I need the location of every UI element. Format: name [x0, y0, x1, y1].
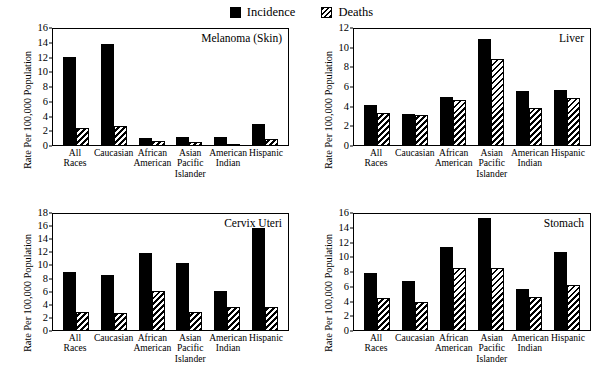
bar-group — [510, 214, 548, 330]
bar-group — [208, 214, 246, 330]
plot-area-melanoma: Melanoma (Skin) — [52, 28, 289, 146]
plot-area-cervix-uteri: Cervix Uteri — [52, 213, 289, 331]
y-tick-label: 2 — [43, 126, 48, 137]
bar-group — [133, 29, 171, 145]
y-tick-label: 18 — [38, 208, 49, 219]
bar-deaths — [114, 126, 127, 145]
plot-area-stomach: Stomach — [353, 213, 591, 331]
bar-group — [472, 214, 510, 330]
x-tick-label: Asian Pacific Islander — [473, 333, 511, 364]
x-tick-label: American Indian — [209, 148, 247, 179]
y-tick-label: 10 — [339, 252, 350, 263]
y-tick-label: 8 — [43, 273, 48, 284]
bar-group — [434, 214, 472, 330]
bar-group — [95, 29, 133, 145]
x-tick-label: All Races — [357, 333, 395, 364]
y-tick-label: 4 — [344, 296, 349, 307]
x-axis-labels-melanoma: All RacesCaucasianAfrican AmericanAsian … — [52, 148, 289, 179]
x-tick-label: African American — [435, 333, 473, 364]
bar-incidence — [364, 105, 377, 145]
bar-incidence — [63, 57, 76, 145]
bar-incidence — [402, 114, 415, 145]
x-tick-label: Hispanic — [247, 148, 285, 179]
bar-group — [246, 29, 284, 145]
bar-group — [170, 29, 208, 145]
bar-group — [170, 214, 208, 330]
bar-incidence — [440, 247, 453, 330]
bar-incidence — [214, 291, 227, 330]
y-axis-ticks: 024681012141618 — [0, 213, 52, 331]
y-tick-label: 0 — [344, 326, 349, 337]
y-tick-label: 0 — [344, 141, 349, 152]
y-tick-label: 16 — [38, 23, 49, 34]
y-tick-label: 2 — [344, 311, 349, 322]
x-tick-label: American Indian — [511, 148, 549, 179]
bar-incidence — [402, 281, 415, 330]
bar-incidence — [516, 289, 529, 330]
bar-group — [95, 214, 133, 330]
bar-deaths — [453, 100, 466, 145]
bar-deaths — [491, 59, 504, 145]
panel-cervix-uteri: Rate Per 100,000 Population 024681012141… — [0, 201, 301, 384]
legend-label-incidence: Incidence — [247, 6, 296, 19]
y-tick-label: 14 — [38, 234, 49, 245]
x-axis-labels-liver: All RacesCaucasianAfrican AmericanAsian … — [353, 148, 591, 179]
x-tick-label: Caucasian — [94, 333, 133, 364]
bar-group — [548, 29, 586, 145]
y-tick-label: 8 — [344, 267, 349, 278]
x-tick-label: Hispanic — [549, 333, 587, 364]
bar-incidence — [554, 252, 567, 330]
bar-incidence — [139, 138, 152, 145]
bar-incidence — [101, 44, 114, 146]
bar-incidence — [176, 263, 189, 330]
x-axis-labels-cervix-uteri: All RacesCaucasianAfrican AmericanAsian … — [52, 333, 289, 364]
bar-incidence — [176, 137, 189, 145]
y-tick-label: 10 — [38, 260, 49, 271]
bar-deaths — [152, 291, 165, 330]
bar-deaths — [491, 268, 504, 330]
bar-deaths — [227, 144, 240, 145]
y-tick-label: 12 — [339, 23, 350, 34]
bar-incidence — [214, 137, 227, 145]
bars-stomach — [354, 214, 590, 330]
bar-deaths — [265, 307, 278, 330]
bar-group — [434, 29, 472, 145]
bars-cervix-uteri — [53, 214, 288, 330]
bar-incidence — [364, 273, 377, 330]
x-tick-label: Asian Pacific Islander — [171, 333, 209, 364]
bar-deaths — [114, 313, 127, 330]
bar-group — [57, 29, 95, 145]
x-tick-label: Hispanic — [247, 333, 285, 364]
y-axis-ticks: 0246810121416 — [301, 213, 353, 331]
y-tick-label: 14 — [339, 223, 350, 234]
y-tick-label: 6 — [344, 282, 349, 293]
bar-deaths — [377, 298, 390, 330]
bar-incidence — [478, 39, 491, 145]
x-tick-label: African American — [133, 148, 171, 179]
x-tick-label: Asian Pacific Islander — [473, 148, 511, 179]
bars-melanoma — [53, 29, 288, 145]
y-tick-label: 4 — [43, 111, 48, 122]
bar-group — [358, 214, 396, 330]
x-tick-label: African American — [133, 333, 171, 364]
x-tick-label: All Races — [56, 148, 94, 179]
bar-deaths — [189, 312, 202, 330]
bar-deaths — [567, 285, 580, 330]
bar-deaths — [453, 268, 466, 330]
bar-deaths — [377, 113, 390, 145]
panel-stomach: Rate Per 100,000 Population 024681012141… — [301, 201, 603, 384]
y-tick-label: 16 — [339, 208, 350, 219]
bar-incidence — [63, 272, 76, 330]
y-tick-label: 6 — [344, 82, 349, 93]
bar-group — [396, 29, 434, 145]
plot-area-liver: Liver — [353, 28, 591, 146]
bar-deaths — [415, 302, 428, 330]
y-tick-label: 12 — [339, 237, 350, 248]
bar-incidence — [101, 275, 114, 330]
bar-deaths — [529, 297, 542, 330]
y-tick-label: 14 — [38, 38, 49, 49]
x-tick-label: African American — [435, 148, 473, 179]
bar-deaths — [152, 141, 165, 145]
x-tick-label: Caucasian — [395, 148, 434, 179]
bar-incidence — [252, 124, 265, 145]
